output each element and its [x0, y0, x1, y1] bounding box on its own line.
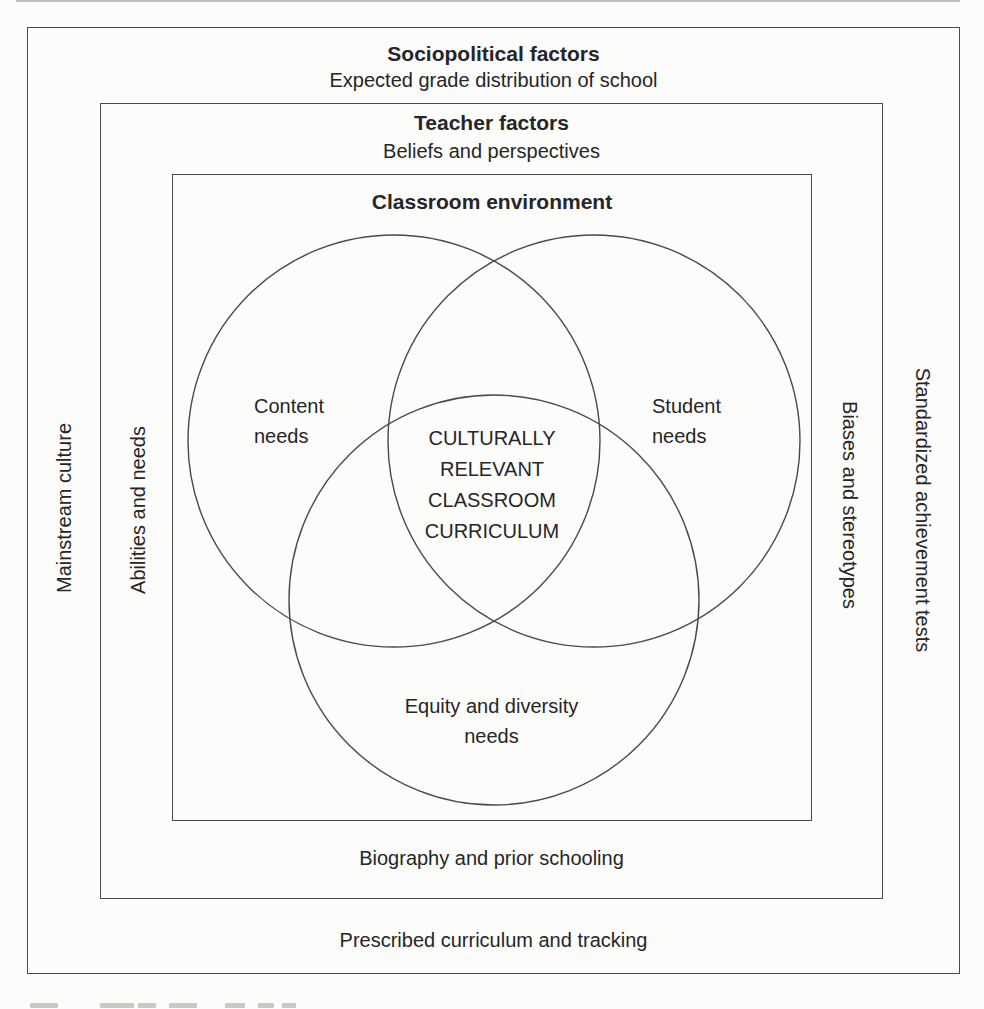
biography-prior-schooling-label: Biography and prior schooling: [100, 846, 883, 870]
center-label-line-4: CURRICULUM: [392, 516, 592, 547]
cropped-caption-fragment: [30, 1003, 58, 1008]
cropped-caption-fragment: [258, 1003, 274, 1008]
student-needs-label: Student needs: [652, 391, 752, 451]
cropped-caption-fragment: [100, 1003, 134, 1008]
mainstream-culture-label: Mainstream culture: [53, 328, 75, 688]
cropped-caption-fragment: [138, 1003, 156, 1008]
cropped-caption-fragment: [282, 1003, 296, 1008]
scanned-figure-page: Sociopolitical factors Expected grade di…: [0, 0, 984, 1009]
teacher-subtitle: Beliefs and perspectives: [100, 139, 883, 163]
sociopolitical-title: Sociopolitical factors: [27, 42, 960, 66]
cropped-caption-fragment: [225, 1003, 245, 1008]
classroom-title: Classroom environment: [172, 190, 812, 214]
biases-and-stereotypes-label: Biases and stereotypes: [839, 325, 861, 685]
cropped-caption-fragment: [169, 1003, 197, 1008]
abilities-and-needs-label: Abilities and needs: [127, 330, 149, 690]
equity-diversity-needs-label: Equity and diversity needs: [389, 691, 594, 751]
center-label-line-2: RELEVANT: [392, 454, 592, 485]
standardized-tests-label: Standardized achievement tests: [912, 330, 934, 690]
content-needs-label: Content needs: [254, 391, 354, 451]
teacher-title: Teacher factors: [100, 111, 883, 135]
sociopolitical-subtitle: Expected grade distribution of school: [27, 68, 960, 92]
center-label-line-1: CULTURALLY: [392, 423, 592, 454]
prescribed-curriculum-label: Prescribed curriculum and tracking: [27, 928, 960, 952]
center-label-line-3: CLASSROOM: [392, 485, 592, 516]
culturally-relevant-curriculum-label: CULTURALLY RELEVANT CLASSROOM CURRICULUM: [392, 423, 592, 547]
